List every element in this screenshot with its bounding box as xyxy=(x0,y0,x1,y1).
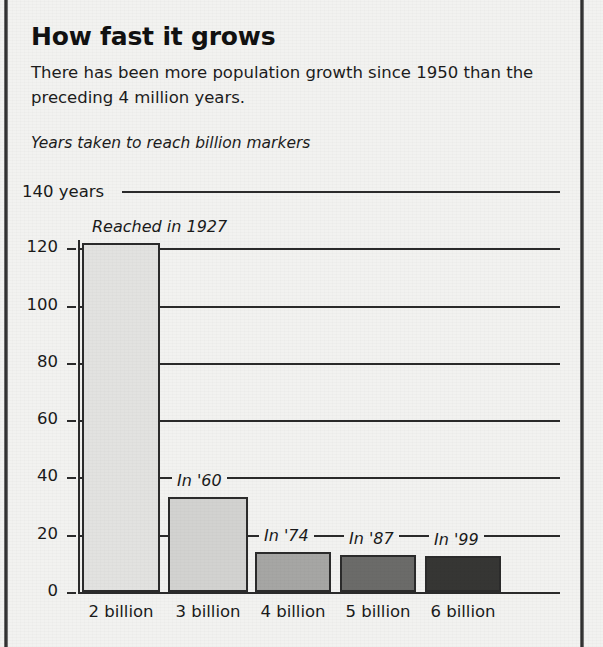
x-axis-label-5: 6 billion xyxy=(413,602,513,621)
y-tick-label-0: 0 xyxy=(6,581,58,600)
bar-3 xyxy=(255,552,331,592)
x-axis-label-1: 2 billion xyxy=(71,602,171,621)
left-border-rule xyxy=(4,0,8,647)
y-tick-120 xyxy=(67,248,76,250)
y-tick-label-40: 40 xyxy=(6,466,58,485)
bar-annotation-1: Reached in 1927 xyxy=(87,217,232,236)
bar-2 xyxy=(168,497,248,592)
gridline-140 xyxy=(122,191,560,193)
bar-annotation-3: In '74 xyxy=(259,526,314,545)
bar-4 xyxy=(340,555,416,592)
y-tick-40 xyxy=(67,477,76,479)
y-tick-label-100: 100 xyxy=(6,295,58,314)
y-tick-label-20: 20 xyxy=(6,524,58,543)
bar-chart: 140 years 020406080100120Reached in 1927… xyxy=(0,0,603,647)
bar-annotation-5: In '99 xyxy=(429,530,484,549)
chart-figure: How fast it grows There has been more po… xyxy=(0,0,603,647)
bar-annotation-4: In '87 xyxy=(344,529,399,548)
y-tick-label-60: 60 xyxy=(6,409,58,428)
y-tick-80 xyxy=(67,363,76,365)
y-axis-line xyxy=(78,240,80,594)
bar-1 xyxy=(82,243,160,592)
y-tick-60 xyxy=(67,420,76,422)
bar-5 xyxy=(425,556,501,592)
x-axis-line xyxy=(78,592,560,594)
bar-annotation-2: In '60 xyxy=(172,471,227,490)
y-tick-label-80: 80 xyxy=(6,352,58,371)
y-tick-label-120: 120 xyxy=(6,237,58,256)
y-tick-20 xyxy=(67,535,76,537)
y-tick-0 xyxy=(67,592,76,594)
right-border-rule xyxy=(580,0,584,647)
y-axis-top-label: 140 years xyxy=(22,182,104,201)
y-tick-100 xyxy=(67,306,76,308)
